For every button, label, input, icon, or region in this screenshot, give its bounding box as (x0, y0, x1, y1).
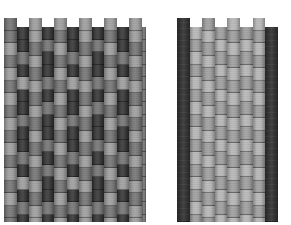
weave-cell (67, 27, 80, 40)
weave-cell (240, 215, 253, 223)
weave-cell (54, 181, 67, 194)
weave-cell (17, 140, 30, 153)
weave-cell (253, 218, 266, 222)
weave-cell (104, 181, 117, 194)
weave-cell (129, 43, 142, 56)
weave-cell (117, 127, 130, 140)
weave-cell (117, 202, 130, 215)
weave-cell (92, 77, 105, 90)
weave-cell (117, 152, 130, 165)
weave-cell (29, 18, 42, 31)
weave-cell (29, 143, 42, 156)
weave-cell (240, 40, 253, 53)
weave-cell (190, 152, 203, 165)
weave-cell (202, 43, 215, 56)
weave-cell (190, 27, 203, 40)
weave-cell (17, 177, 30, 190)
weave-cell (240, 102, 253, 115)
weave-cell (92, 40, 105, 53)
weave-cell (17, 215, 30, 223)
weave-cell (142, 177, 147, 190)
weave-cell (17, 102, 30, 115)
weave-cell (227, 106, 240, 119)
left-warp-column (129, 18, 142, 222)
weave-cell (29, 168, 42, 181)
weave-cell (202, 181, 215, 194)
weave-cell (4, 168, 17, 181)
weave-cell (129, 93, 142, 106)
weave-cell (79, 93, 92, 106)
weave-cell (92, 202, 105, 215)
weave-cell (142, 190, 147, 203)
weave-cell (129, 156, 142, 169)
weave-cell (117, 102, 130, 115)
weave-cell (4, 218, 17, 222)
weave-cell (67, 77, 80, 90)
left-warp-column (117, 27, 130, 222)
weave-cell (67, 140, 80, 153)
weave-cell (190, 127, 203, 140)
left-warp-column (92, 27, 105, 222)
weave-cell (215, 152, 228, 165)
weave-cell (92, 65, 105, 78)
weave-cell (202, 206, 215, 219)
weave-cell (240, 165, 253, 178)
weave-cell (215, 40, 228, 53)
left-warp-column (67, 27, 80, 222)
weave-cell (54, 131, 67, 144)
weave-cell (29, 93, 42, 106)
weave-cell (92, 165, 105, 178)
weave-cell (104, 218, 117, 222)
weave-cell (253, 181, 266, 194)
weave-cell (215, 202, 228, 215)
weave-cell (104, 168, 117, 181)
weave-cell (29, 218, 42, 222)
weave-cell (42, 165, 55, 178)
weave-cell (54, 56, 67, 69)
weave-cell (190, 115, 203, 128)
weave-cell (42, 152, 55, 165)
left-warp-column (17, 27, 30, 222)
weave-cell (104, 156, 117, 169)
weave-cell (29, 68, 42, 81)
weave-cell (190, 202, 203, 215)
weave-cell (67, 115, 80, 128)
weave-cell (17, 152, 30, 165)
weave-cell (202, 143, 215, 156)
weave-cell (4, 206, 17, 219)
weave-cell (240, 52, 253, 65)
weave-cell (4, 193, 17, 206)
weave-cell (4, 106, 17, 119)
weave-cell (215, 115, 228, 128)
weave-cell (79, 156, 92, 169)
weave-cell (215, 90, 228, 103)
weave-cell (142, 40, 147, 53)
weave-cell (4, 131, 17, 144)
weave-cell (202, 193, 215, 206)
weave-cell (117, 165, 130, 178)
weave-cell (42, 177, 55, 190)
weave-cell (253, 31, 266, 44)
weave-cell (227, 193, 240, 206)
weave-cell (117, 190, 130, 203)
weave-cell (227, 81, 240, 94)
weave-cell (202, 18, 215, 31)
weave-cell (227, 31, 240, 44)
weave-cell (202, 81, 215, 94)
weave-cell (79, 56, 92, 69)
weave-cell (202, 93, 215, 106)
weave-cell (54, 143, 67, 156)
weave-cell (253, 43, 266, 56)
weave-cell (67, 202, 80, 215)
weave-cell (142, 152, 147, 165)
weave-cell (215, 165, 228, 178)
weave-cell (240, 190, 253, 203)
weave-cell (215, 52, 228, 65)
weave-cell (4, 31, 17, 44)
weave-cell (67, 177, 80, 190)
right-warp-column (215, 27, 228, 222)
weave-cell (129, 193, 142, 206)
weave-cell (202, 168, 215, 181)
weave-cell (227, 68, 240, 81)
weave-cell (17, 202, 30, 215)
